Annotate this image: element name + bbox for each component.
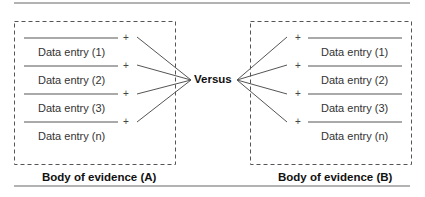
plus-icon: + (123, 88, 129, 99)
right-caption: Body of evidence (B) (278, 171, 392, 183)
right-box (251, 22, 412, 165)
diagram-lines (0, 0, 425, 197)
plus-icon: + (295, 60, 301, 71)
plus-icon: + (295, 32, 301, 43)
right-entry-2: Data entry (2) (321, 74, 388, 86)
plus-icon: + (123, 116, 129, 127)
left-entry-n: Data entry (n) (38, 130, 105, 142)
right-entry-n: Data entry (n) (321, 130, 388, 142)
left-entry-1: Data entry (1) (38, 46, 105, 58)
plus-icon: + (295, 88, 301, 99)
left-entry-3: Data entry (3) (38, 102, 105, 114)
plus-icon: + (295, 116, 301, 127)
left-caption: Body of evidence (A) (42, 171, 156, 183)
versus-label: Versus (194, 73, 232, 85)
left-entry-2: Data entry (2) (38, 74, 105, 86)
left-box (15, 22, 176, 165)
plus-icon: + (123, 32, 129, 43)
plus-icon: + (123, 60, 129, 71)
right-entry-3: Data entry (3) (321, 102, 388, 114)
right-entry-1: Data entry (1) (321, 46, 388, 58)
